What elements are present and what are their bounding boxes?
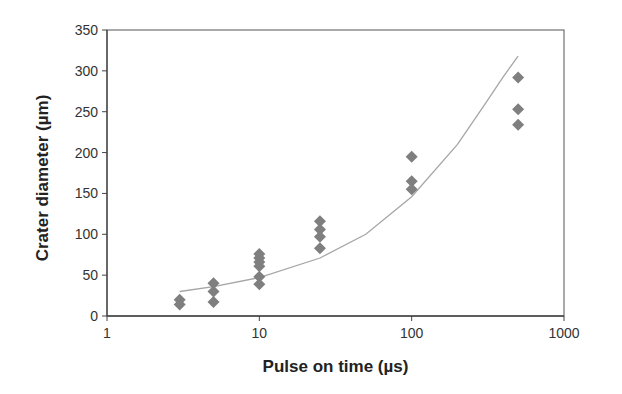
x-tick-label: 1: [103, 325, 111, 341]
y-tick-label: 0: [90, 308, 98, 324]
data-markers: [174, 71, 524, 310]
y-tick-label: 350: [75, 22, 99, 38]
x-tick-label: 1000: [548, 325, 579, 341]
y-tick-label: 200: [75, 145, 99, 161]
y-tick-label: 300: [75, 63, 99, 79]
data-point-diamond: [406, 183, 418, 195]
data-point-diamond: [207, 296, 219, 308]
data-point-diamond: [253, 278, 265, 290]
plot-area: 050100150200250300350 1101001000: [75, 22, 580, 341]
x-axis-title: Pulse on time (µs): [263, 357, 409, 376]
data-point-diamond: [314, 242, 326, 254]
y-tick-label: 50: [82, 267, 98, 283]
y-ticks: 050100150200250300350: [75, 22, 107, 324]
y-axis-title: Crater diameter (µm): [33, 95, 52, 262]
x-tick-label: 100: [400, 325, 424, 341]
y-tick-label: 250: [75, 104, 99, 120]
x-tick-label: 10: [252, 325, 268, 341]
x-ticks: 1101001000: [103, 316, 580, 341]
plot-frame: [107, 30, 564, 316]
y-tick-label: 150: [75, 185, 99, 201]
chart: 050100150200250300350 1101001000 Pulse o…: [0, 0, 622, 394]
y-tick-label: 100: [75, 226, 99, 242]
data-point-diamond: [512, 119, 524, 131]
data-point-diamond: [512, 103, 524, 115]
data-point-diamond: [512, 71, 524, 83]
data-point-diamond: [406, 151, 418, 163]
fit-curve: [180, 56, 518, 291]
data-point-diamond: [314, 231, 326, 243]
